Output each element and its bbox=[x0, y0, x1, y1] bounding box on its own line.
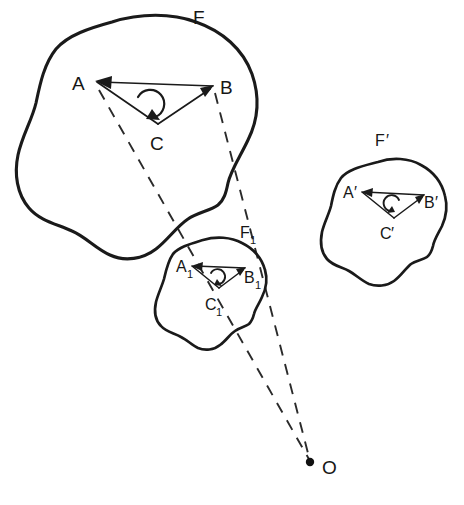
homothety-diagram: F A B C F 1 A 1 B 1 C 1 bbox=[0, 0, 464, 505]
label-figure-f1-subscript: 1 bbox=[250, 234, 256, 246]
label-figure-f1: F bbox=[240, 224, 250, 241]
label-vertex-c1-subscript: 1 bbox=[216, 306, 222, 318]
label-vertex-c: C bbox=[150, 133, 164, 154]
label-center-o: O bbox=[322, 457, 337, 478]
label-vertex-b1: B bbox=[244, 269, 255, 286]
center-of-similarity-group: O bbox=[306, 457, 337, 478]
label-vertex-a1: A bbox=[176, 258, 187, 275]
figure-f-outline bbox=[16, 15, 257, 259]
edge-b-to-a bbox=[100, 82, 213, 86]
triangle-aprime-bprime-cprime bbox=[361, 188, 425, 218]
label-vertex-aprime: A bbox=[343, 184, 354, 201]
label-vertex-b: B bbox=[220, 77, 233, 98]
orientation-arrow-f bbox=[138, 90, 164, 120]
orientation-arrow-fprime bbox=[384, 195, 399, 213]
label-vertex-cprime-prime: ′ bbox=[391, 225, 394, 242]
figure-f-group: F A B C bbox=[16, 7, 257, 259]
figure-fprime-outline bbox=[321, 159, 446, 286]
edge-c-to-b bbox=[158, 89, 210, 124]
edge-bprime-to-aprime bbox=[365, 192, 424, 195]
label-figure-f: F bbox=[193, 7, 205, 28]
label-vertex-a: A bbox=[72, 73, 85, 94]
label-vertex-cprime: C bbox=[380, 225, 392, 242]
label-vertex-bprime: B bbox=[424, 194, 435, 211]
label-vertex-bprime-prime: ′ bbox=[435, 194, 438, 211]
projection-ray-b bbox=[215, 93, 310, 461]
label-vertex-aprime-prime: ′ bbox=[354, 184, 357, 201]
label-figure-fprime-prime: ′ bbox=[386, 132, 389, 149]
label-vertex-b1-subscript: 1 bbox=[255, 279, 261, 291]
figure-fprime-group: F ′ A ′ B ′ C ′ bbox=[321, 132, 446, 286]
label-vertex-a1-subscript: 1 bbox=[187, 268, 193, 280]
label-figure-fprime: F bbox=[375, 132, 385, 149]
figure-f1-outline bbox=[155, 238, 266, 350]
center-point-dot bbox=[306, 458, 314, 466]
label-vertex-c1: C bbox=[205, 296, 217, 313]
